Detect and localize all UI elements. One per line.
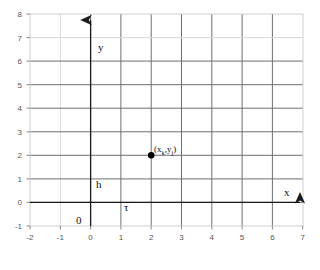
y-tick-label-4: 4 — [18, 104, 23, 113]
x-tick-label-6: 6 — [270, 233, 275, 242]
x-tick-label-neg2: -2 — [26, 233, 34, 242]
y-tick-label-5: 5 — [18, 81, 23, 90]
plot-background — [30, 14, 303, 226]
y-axis-label: y — [98, 41, 104, 53]
x-tick-label-2: 2 — [149, 233, 154, 242]
point-label-close-paren: ) — [173, 144, 176, 154]
plot-canvas: y x h τ 0 (xk,yj) -2 -1 0 1 2 — [0, 0, 320, 270]
y-tick-label-6: 6 — [18, 57, 23, 66]
x-tick-label-0: 0 — [88, 233, 93, 242]
y-tick-label-neg1: -1 — [15, 222, 23, 231]
x-axis-label: x — [284, 186, 290, 198]
y-tick-label-2: 2 — [18, 151, 23, 160]
y-tick-label-1: 1 — [18, 175, 23, 184]
x-tick-label-7: 7 — [300, 233, 305, 242]
coordinate-grid-figure: y x h τ 0 (xk,yj) -2 -1 0 1 2 — [0, 0, 320, 270]
x-tick-label-5: 5 — [240, 233, 245, 242]
annotation-origin: 0 — [76, 214, 82, 226]
annotation-tau: τ — [124, 201, 129, 213]
data-point-label: (xk,yj) — [154, 144, 176, 156]
x-axis-ticks: -2 -1 0 1 2 3 4 5 6 7 — [26, 226, 305, 242]
x-tick-label-3: 3 — [179, 233, 184, 242]
y-tick-label-3: 3 — [18, 128, 23, 137]
y-tick-label-8: 8 — [18, 10, 23, 19]
annotation-h: h — [96, 178, 102, 190]
x-tick-label-1: 1 — [119, 233, 124, 242]
x-tick-label-4: 4 — [210, 233, 215, 242]
y-tick-label-7: 7 — [18, 34, 23, 43]
x-tick-label-neg1: -1 — [57, 233, 65, 242]
y-tick-label-0: 0 — [18, 198, 23, 207]
y-axis-ticks: -1 0 1 2 3 4 5 6 7 8 — [15, 10, 30, 231]
